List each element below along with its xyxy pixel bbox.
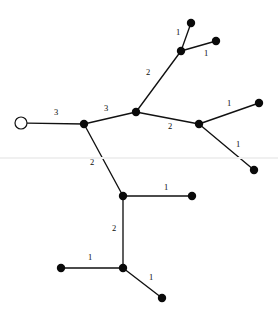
graph-edge-root-n1 xyxy=(27,123,84,124)
graph-edge-n6-n8 xyxy=(199,124,254,170)
edge-weight-label-e5: 1 xyxy=(204,48,208,58)
edge-weight-label-e12: 1 xyxy=(88,252,92,262)
graph-node-n13 xyxy=(158,294,166,302)
graph-edge-n11-n13 xyxy=(123,268,162,298)
graph-edge-n1-n2 xyxy=(84,112,136,124)
edge-weight-label-e2: 3 xyxy=(104,103,108,113)
edge-labels-layer: 3321121121211 xyxy=(54,27,240,282)
tree-diagram-svg: 3321121121211 xyxy=(0,0,278,316)
graph-node-n10 xyxy=(188,192,196,200)
edges-layer xyxy=(27,23,259,298)
graph-node-root xyxy=(15,117,27,129)
edge-weight-label-e9: 2 xyxy=(90,157,94,167)
edge-weight-label-e6: 2 xyxy=(168,121,172,131)
graph-node-n11 xyxy=(119,264,127,272)
edge-weight-label-e8: 1 xyxy=(236,139,240,149)
graph-node-n5 xyxy=(212,37,220,45)
edge-weight-label-e10: 1 xyxy=(164,182,168,192)
graph-node-n12 xyxy=(57,264,65,272)
nodes-layer xyxy=(15,19,263,302)
graph-node-n9 xyxy=(119,192,127,200)
graph-node-n4 xyxy=(187,19,195,27)
edge-weight-label-e1: 3 xyxy=(54,107,58,117)
graph-edge-n3-n5 xyxy=(181,41,216,51)
edge-weight-label-e11: 2 xyxy=(112,223,116,233)
edge-weight-label-e4: 1 xyxy=(176,27,180,37)
graph-node-n3 xyxy=(177,47,185,55)
edge-weight-label-e3: 2 xyxy=(146,67,150,77)
edge-weight-label-e13: 1 xyxy=(149,272,153,282)
edge-weight-label-e7: 1 xyxy=(227,98,231,108)
graph-node-n8 xyxy=(250,166,258,174)
tree-diagram-canvas: 3321121121211 xyxy=(0,0,278,316)
graph-edge-n3-n4 xyxy=(181,23,191,51)
graph-node-n2 xyxy=(132,108,140,116)
graph-edge-n2-n3 xyxy=(136,51,181,112)
graph-node-n6 xyxy=(195,120,203,128)
graph-node-n7 xyxy=(255,99,263,107)
graph-node-n1 xyxy=(80,120,88,128)
